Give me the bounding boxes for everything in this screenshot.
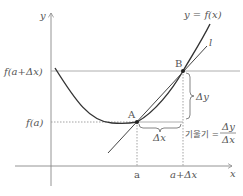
point-b-label: B <box>175 58 182 69</box>
y-axis-label: y <box>39 10 46 21</box>
delta-x-brace <box>139 124 181 132</box>
delta-y-label: Δy <box>195 91 209 102</box>
slope-prefix: 기울기 = <box>185 129 219 139</box>
f-a-label: f(a) <box>25 117 44 128</box>
secant-slope-diagram: y x A B y = f(x) l f(a+Δx) f(a) a a+Δx Δ… <box>0 0 243 196</box>
point-a <box>135 120 139 124</box>
delta-x-label: Δx <box>152 132 166 143</box>
a-tick-label: a <box>134 169 140 180</box>
delta-y-brace <box>186 73 194 119</box>
point-a-label: A <box>127 109 136 120</box>
a-plus-dx-tick-label: a+Δx <box>170 169 198 180</box>
x-axis-label: x <box>230 168 236 179</box>
slope-denominator: Δx <box>221 134 235 145</box>
line-label: l <box>209 37 212 48</box>
curve-label: y = f(x) <box>183 9 222 20</box>
slope-numerator: Δy <box>221 121 235 132</box>
point-b <box>181 69 185 73</box>
f-a-plus-dx-label: f(a+Δx) <box>3 66 43 77</box>
